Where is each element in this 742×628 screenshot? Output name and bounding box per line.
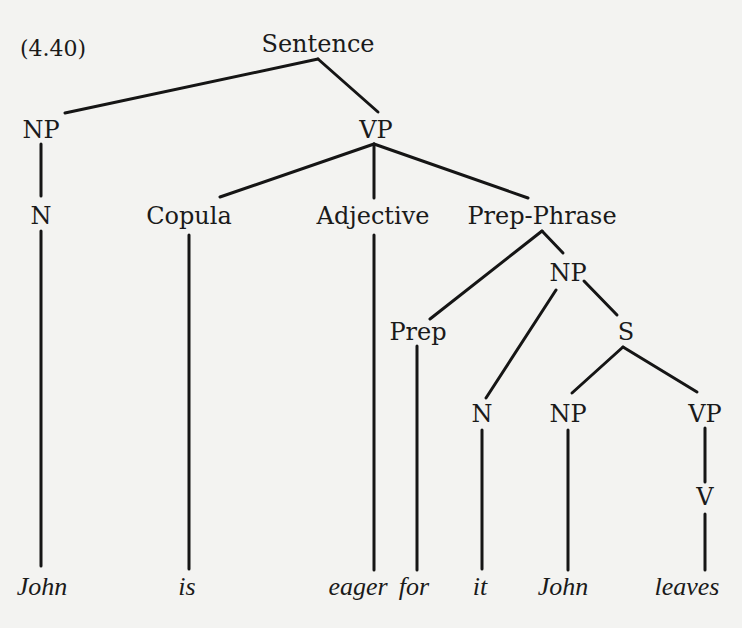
word-for: for bbox=[399, 572, 430, 601]
node-vp-main: VP bbox=[358, 116, 392, 144]
node-v-embedded: V bbox=[695, 483, 714, 511]
edge-sentence-np bbox=[65, 59, 318, 113]
edge-prepphrase-prep bbox=[430, 231, 542, 319]
node-np-subject: NP bbox=[22, 116, 59, 144]
node-s-embedded: S bbox=[618, 318, 634, 346]
word-john-2: John bbox=[538, 572, 589, 601]
edge-vp-prepphrase bbox=[374, 144, 528, 198]
tree-nodes: Sentence NP VP N Copula Adjective Prep-P… bbox=[22, 30, 721, 511]
node-vp-embedded: VP bbox=[687, 400, 721, 428]
edge-sentence-vp bbox=[318, 59, 378, 112]
node-prep-phrase: Prep-Phrase bbox=[467, 202, 616, 230]
edge-s-vp bbox=[623, 347, 697, 392]
edge-prepphrase-np bbox=[542, 231, 563, 253]
node-sentence: Sentence bbox=[261, 30, 374, 58]
node-np-embedded: NP bbox=[549, 400, 586, 428]
node-adjective: Adjective bbox=[316, 202, 430, 230]
word-it: it bbox=[473, 572, 488, 601]
word-eager: eager bbox=[328, 572, 388, 601]
syntax-tree-figure: (4.40) Sentence NP VP N Copula Adjective… bbox=[0, 0, 742, 628]
terminal-words: John is eager for it John leaves bbox=[17, 572, 720, 601]
edge-vp-copula bbox=[220, 144, 374, 197]
example-number: (4.40) bbox=[20, 36, 86, 61]
edge-s-np bbox=[572, 347, 623, 393]
word-leaves: leaves bbox=[655, 572, 720, 601]
edge-np-n2 bbox=[486, 290, 556, 398]
word-john-1: John bbox=[17, 572, 68, 601]
node-copula: Copula bbox=[146, 202, 232, 230]
node-n-object: N bbox=[472, 400, 493, 428]
word-is: is bbox=[178, 572, 195, 601]
node-n-subject: N bbox=[31, 202, 52, 230]
node-prep: Prep bbox=[389, 318, 446, 346]
node-np-object: NP bbox=[549, 259, 586, 287]
edge-np-s bbox=[584, 281, 617, 315]
syntax-tree-svg: (4.40) Sentence NP VP N Copula Adjective… bbox=[0, 0, 742, 628]
